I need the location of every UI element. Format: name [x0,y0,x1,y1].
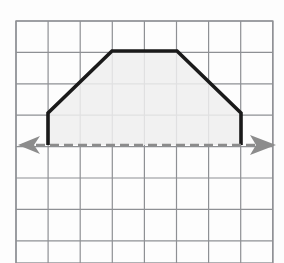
trapezoid-fill [48,51,241,145]
figure-canvas [0,0,284,263]
geometry-figure [0,0,284,263]
shape-layer [48,51,241,145]
